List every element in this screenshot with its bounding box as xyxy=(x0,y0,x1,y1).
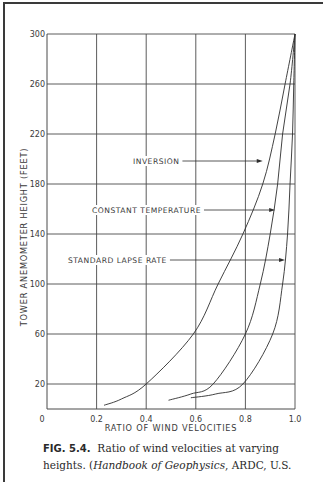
arrowhead-icon xyxy=(279,258,285,262)
y-tick-label: 300 xyxy=(30,30,45,39)
y-axis-label: TOWER ANEMOMETER HEIGHT (FEET) xyxy=(19,148,29,327)
annotation-label: STANDARD LAPSE RATE xyxy=(68,256,167,265)
x-tick-label: 0 xyxy=(39,415,44,424)
y-tick-label: 220 xyxy=(30,130,45,139)
x-tick-label: 1.0 xyxy=(289,415,302,424)
x-axis-label: RATIO OF WIND VELOCITIES xyxy=(105,423,238,433)
figure-number: FIG. 5.4. xyxy=(43,443,91,454)
caption-line-2: heights. (Handbook of Geophysics, ARDC, … xyxy=(43,457,313,473)
curve-inversion xyxy=(104,34,295,405)
annotation-label: INVERSION xyxy=(133,157,179,166)
y-tick-label: 60 xyxy=(35,330,45,339)
caption-source-title: Handbook of Geophysics xyxy=(93,459,225,471)
wind-ratio-chart: 2060100140180220260300 00.20.40.60.81.0 … xyxy=(0,0,313,440)
y-tick-label: 260 xyxy=(30,80,45,89)
caption-text-suffix: , ARDC, U.S. xyxy=(225,459,291,471)
y-axis-ticks: 2060100140180220260300 xyxy=(30,30,45,389)
chart-annotations: INVERSIONCONSTANT TEMPERATURESTANDARD LA… xyxy=(66,156,285,265)
y-tick-label: 140 xyxy=(30,230,45,239)
y-tick-label: 20 xyxy=(35,380,45,389)
y-tick-label: 100 xyxy=(30,280,45,289)
chart-grid xyxy=(47,34,295,409)
chart-curves xyxy=(104,34,295,405)
caption-text: Ratio of wind velocities at varying xyxy=(97,442,279,454)
caption-line-1: FIG. 5.4. Ratio of wind velocities at va… xyxy=(43,440,313,457)
x-tick-label: 0.8 xyxy=(239,415,252,424)
x-tick-label: 0.2 xyxy=(90,415,103,424)
figure-caption: FIG. 5.4. Ratio of wind velocities at va… xyxy=(43,440,313,473)
curve-constant-temperature xyxy=(169,34,295,400)
arrowhead-icon xyxy=(257,159,263,163)
caption-text-prefix: heights. ( xyxy=(43,459,93,471)
curve-standard-lapse-rate xyxy=(191,34,295,398)
annotation-label: CONSTANT TEMPERATURE xyxy=(92,206,201,215)
y-tick-label: 180 xyxy=(30,180,45,189)
